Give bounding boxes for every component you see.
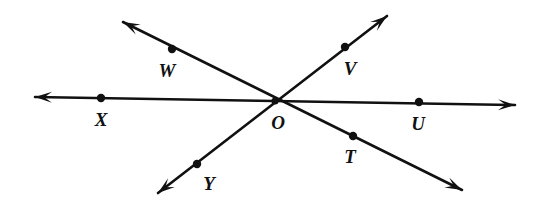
point-dot-V: [341, 43, 349, 51]
point-label-Y: Y: [203, 174, 215, 193]
point-label-T: T: [344, 147, 356, 166]
point-label-X: X: [95, 110, 108, 129]
points-group: [97, 43, 423, 168]
point-dot-T: [349, 132, 357, 140]
point-dot-Y: [193, 160, 201, 168]
point-dot-U: [415, 98, 423, 106]
geometry-diagram: WVXOUTY: [0, 0, 554, 206]
geometry-canvas: [0, 0, 554, 206]
point-label-O: O: [271, 113, 285, 132]
point-dot-X: [97, 94, 105, 102]
point-label-U: U: [411, 114, 425, 133]
point-dot-O: [271, 97, 278, 104]
point-label-W: W: [159, 61, 176, 80]
point-label-V: V: [344, 59, 357, 78]
point-dot-W: [168, 45, 176, 53]
